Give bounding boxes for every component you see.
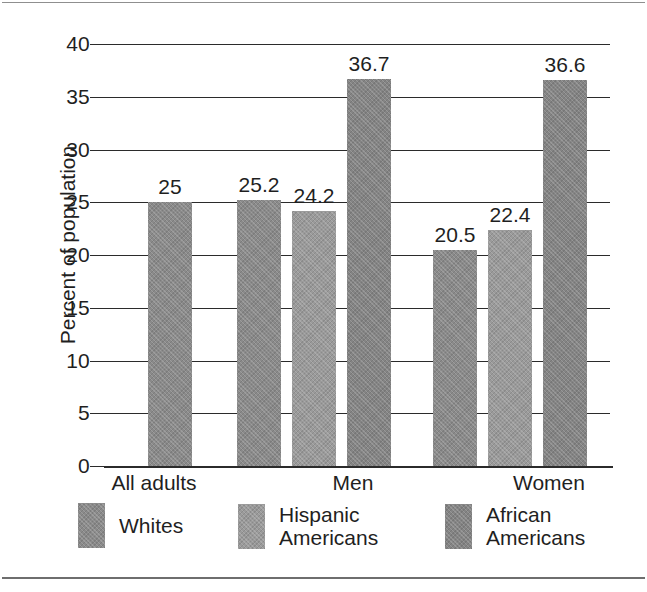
y-axis-tick <box>90 466 107 467</box>
bar-value-label: 36.6 <box>529 54 601 75</box>
x-axis-category-label: Women <box>459 472 639 494</box>
bottom-divider-rule <box>2 577 645 579</box>
bar-value-label: 36.7 <box>333 53 405 74</box>
y-axis-tick-label: 40 <box>66 33 90 54</box>
y-axis-tick <box>90 97 107 98</box>
y-axis-tick-labels: 0510152025303540 <box>52 44 90 468</box>
y-axis-tick <box>90 202 107 203</box>
legend-swatch <box>445 504 472 549</box>
bar-value-label: 20.5 <box>419 224 491 245</box>
legend-label: African Americans <box>486 503 585 549</box>
bar[interactable] <box>347 79 391 466</box>
x-axis-line <box>104 466 613 468</box>
x-axis-category-label: All adults <box>64 472 244 494</box>
x-axis-category-label: Men <box>263 472 443 494</box>
bar[interactable] <box>433 250 477 466</box>
y-axis-tick <box>90 413 107 414</box>
bar-value-label: 25 <box>134 176 206 197</box>
y-axis-tick-label: 35 <box>66 86 90 107</box>
legend-label: Hispanic Americans <box>279 503 378 549</box>
y-axis-tick <box>90 44 107 45</box>
legend-item[interactable]: Whites <box>78 503 183 548</box>
y-axis-title-wrapper: Percent of population <box>34 44 35 468</box>
chart-figure: Percent of population 0510152025303540 2… <box>0 0 647 592</box>
y-axis-tick-label: 10 <box>66 350 90 371</box>
y-axis-tick <box>90 150 107 151</box>
bar-value-label: 22.4 <box>474 204 546 225</box>
y-axis-tick-label: 15 <box>66 297 90 318</box>
y-axis-tick-label: 5 <box>78 402 90 423</box>
gridline <box>106 44 610 45</box>
chart-legend: WhitesHispanic AmericansAfrican American… <box>0 503 647 559</box>
y-axis-tick-label: 25 <box>66 191 90 212</box>
legend-item[interactable]: African Americans <box>445 503 585 549</box>
y-axis-tick-label: 20 <box>66 244 90 265</box>
legend-label: Whites <box>119 514 183 537</box>
bar[interactable] <box>543 80 587 466</box>
bar[interactable] <box>148 202 192 466</box>
legend-swatch <box>238 504 265 549</box>
y-axis-tick <box>90 308 107 309</box>
bar[interactable] <box>292 211 336 466</box>
top-divider-rule <box>2 2 645 3</box>
bar-value-label: 24.2 <box>278 185 350 206</box>
legend-swatch <box>78 503 105 548</box>
y-axis-tick <box>90 361 107 362</box>
plot-area: 2525.224.236.720.522.436.6 <box>106 44 610 468</box>
y-axis-tick-label: 30 <box>66 139 90 160</box>
bar[interactable] <box>237 200 281 466</box>
bar[interactable] <box>488 230 532 466</box>
y-axis-tick <box>90 255 107 256</box>
legend-item[interactable]: Hispanic Americans <box>238 503 378 549</box>
